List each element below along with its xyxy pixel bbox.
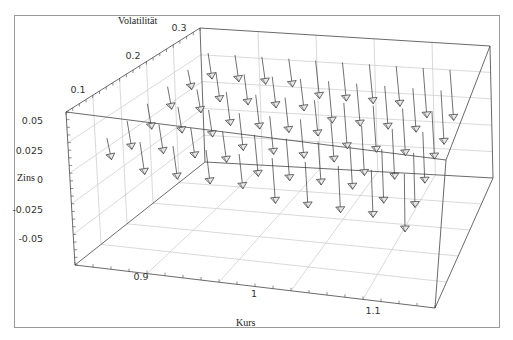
z-tick: 0.05 bbox=[22, 115, 43, 126]
3d-vector-plot: 0.05 0.025 0 -0.025 -0.05 Zins 0.1 0.2 0… bbox=[0, 0, 513, 340]
z-tick: 0.025 bbox=[16, 145, 43, 156]
x-axis-label: Kurs bbox=[236, 317, 256, 328]
z-axis-label: Zins bbox=[17, 172, 35, 183]
y-tick: 0.3 bbox=[171, 22, 186, 33]
z-tick: -0.05 bbox=[18, 233, 43, 244]
bounding-box bbox=[66, 28, 493, 308]
grid-lines bbox=[68, 32, 493, 300]
z-tick: 0 bbox=[37, 174, 43, 185]
x-tick: 0.9 bbox=[133, 271, 148, 282]
y-axis-label: Volatilität bbox=[118, 15, 157, 26]
x-tick: 1.1 bbox=[365, 305, 380, 316]
x-tick: 1 bbox=[251, 288, 257, 299]
y-tick: 0.2 bbox=[125, 50, 140, 61]
y-tick: 0.1 bbox=[70, 84, 85, 95]
z-tick: -0.025 bbox=[12, 204, 43, 215]
vector-arrows bbox=[106, 53, 458, 232]
